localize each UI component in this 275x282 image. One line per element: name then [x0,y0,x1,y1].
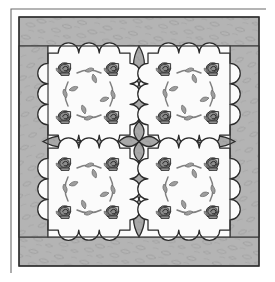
block-top-right[interactable] [138,43,241,146]
block-bottom-right[interactable] [138,138,241,241]
block-top-left[interactable] [38,43,141,146]
block-bottom-left[interactable] [38,138,141,241]
quilt-diagram-svg [0,0,275,282]
quilt-illustration: Rose Wreath Quilt Block Layout quilt-pat… [0,0,275,282]
